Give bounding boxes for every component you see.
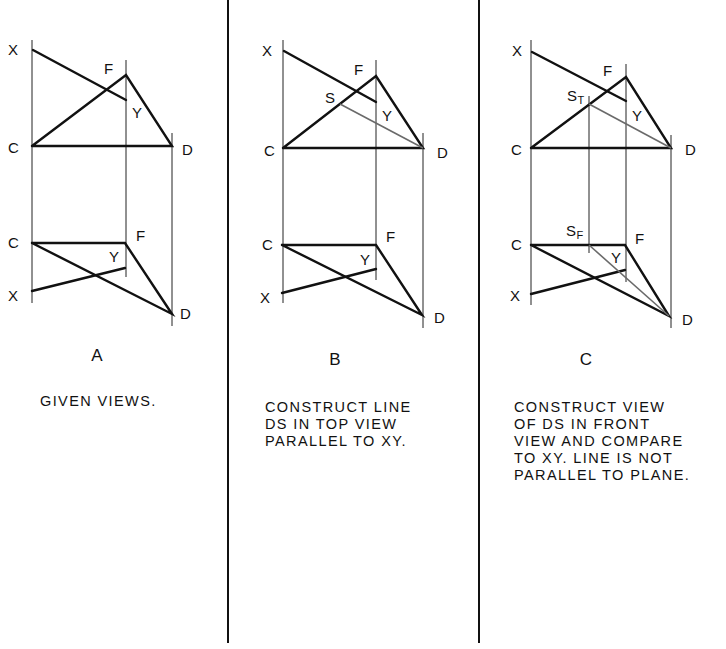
label-s-subscript-f: F (577, 229, 584, 241)
label-x-top: X (8, 42, 19, 57)
figure-linework (0, 0, 726, 649)
top-view (531, 52, 671, 148)
label-f-top: F (354, 62, 364, 77)
label-d-top: D (685, 142, 696, 157)
label-f-top: F (104, 61, 114, 76)
plane-cfd (32, 243, 172, 314)
front-view (282, 245, 422, 315)
plane-cfd (282, 245, 422, 315)
line-xy (531, 270, 625, 294)
label-c-top: C (8, 140, 19, 155)
label-s-top: ST (567, 88, 585, 108)
panel-caption: CONSTRUCT VIEW OF DS IN FRONT VIEW AND C… (514, 399, 690, 484)
top-view (283, 51, 423, 148)
label-x-top: X (512, 43, 523, 58)
label-d-front: D (180, 306, 191, 321)
label-y-top: Y (382, 108, 393, 123)
label-y-front: Y (109, 249, 120, 264)
panel-caption: GIVEN VIEWS. (40, 393, 157, 410)
front-view (531, 245, 669, 316)
label-y-top: Y (132, 105, 143, 120)
panel-b-drawing (282, 40, 423, 328)
label-c-top: C (264, 143, 275, 158)
panel-letter: C (556, 350, 616, 370)
label-d-top: D (182, 142, 193, 157)
panel-caption: CONSTRUCT LINE DS IN TOP VIEW PARALLEL T… (265, 399, 412, 450)
label-y-front: Y (611, 250, 622, 265)
label-d-front: D (434, 310, 445, 325)
panel-c-drawing (531, 40, 671, 328)
label-c-top: C (511, 142, 522, 157)
top-view (32, 50, 172, 146)
front-view (32, 243, 172, 314)
label-s: S (567, 87, 578, 104)
label-x-front: X (8, 288, 19, 303)
label-f-top: F (603, 63, 613, 78)
line-xy (282, 269, 376, 293)
label-c-front: C (511, 237, 522, 252)
panel-letter: A (67, 346, 127, 366)
label-f-front: F (635, 231, 645, 246)
label-x-front: X (510, 288, 521, 303)
label-x-top: X (262, 43, 273, 58)
panel-letter: B (305, 350, 365, 370)
label-x-front: X (260, 290, 271, 305)
label-c-front: C (262, 237, 273, 252)
label-s-top: S (325, 90, 336, 105)
label-y-top: Y (632, 108, 643, 123)
label-s-front: SF (566, 223, 584, 243)
panel-a-drawing (32, 40, 172, 326)
label-d-front: D (682, 312, 693, 327)
descriptive-geometry-figure: X F Y C D C F Y X D A GIVEN VIEWS. X F S… (0, 0, 726, 649)
plane-cfd (32, 75, 172, 146)
label-s-subscript-t: T (578, 94, 585, 106)
construction-line-ds (589, 104, 671, 148)
label-c-front: C (8, 235, 19, 250)
label-d-top: D (437, 145, 448, 160)
label-f-front: F (386, 229, 396, 244)
line-xy (32, 268, 125, 291)
label-s: S (566, 222, 577, 239)
label-y-front: Y (360, 252, 371, 267)
label-f-front: F (136, 228, 146, 243)
